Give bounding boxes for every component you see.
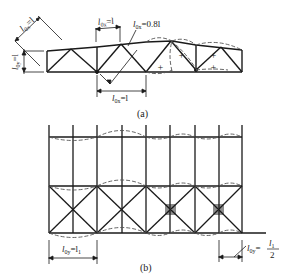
svg-text:l0y=l: l0y=l <box>10 53 21 70</box>
truss-diagonal <box>121 44 146 72</box>
dim-left-vertical <box>22 49 44 74</box>
plus-sign: + <box>210 62 217 73</box>
caption-a: (a) <box>137 108 148 120</box>
dim-diagonal-left <box>15 16 62 66</box>
truss-node <box>96 71 99 74</box>
truss-diagonal <box>97 44 121 72</box>
truss-diagonal <box>71 49 97 72</box>
label-l0y-right-b: l0y= <box>247 243 261 254</box>
label-l0x-08l: l0x=0.8l <box>133 19 161 30</box>
truss-plan-b <box>49 125 266 233</box>
label-fraction-num: l1 <box>269 238 275 249</box>
plus-signs: + + + + <box>157 50 217 73</box>
truss-diagonal <box>47 49 71 72</box>
truss-diagonal <box>196 47 221 70</box>
plus-sign: + <box>157 62 164 73</box>
svg-text:l0x=l: l0x=l <box>18 15 38 34</box>
label-l0y-left-b: l0y=l1 <box>62 244 81 255</box>
label-l0x-bottom: l0x=l <box>112 93 129 104</box>
buckling-length-diagram: + + + + l0y=l l0x=l l0x=l l0x=0.8l <box>0 0 284 279</box>
dim-right-b <box>218 240 246 262</box>
truss-diagonal <box>221 47 242 72</box>
label-l0x-top: l0x=l <box>97 16 114 28</box>
plus-sign: + <box>210 50 217 61</box>
caption-b: (b) <box>140 262 152 274</box>
label-fraction-den: 2 <box>270 250 275 260</box>
label-l0x-diag: l0x=l <box>18 15 38 34</box>
label-l0y-left-a: l0y=l <box>10 53 21 70</box>
dim-top <box>95 25 121 42</box>
plus-sign: + <box>178 50 185 61</box>
